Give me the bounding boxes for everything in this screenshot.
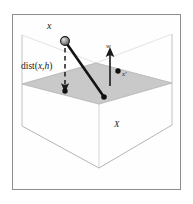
label-normal-vector-w: w	[106, 43, 111, 50]
label-distance-expression: dist(x,h)	[21, 62, 52, 72]
figure-graphics	[0, 0, 193, 204]
plane-point-x-prime	[115, 68, 120, 73]
point-x-sphere	[61, 37, 70, 46]
segment-endpoint	[101, 94, 107, 100]
figure-root: x w x′ X dist(x,h)	[0, 0, 193, 204]
label-instance-space-X: X	[114, 120, 120, 129]
dist-suffix: )	[49, 61, 52, 71]
label-point-x: x	[47, 21, 51, 31]
dist-prefix: dist(	[21, 61, 38, 71]
plane-foot-point	[62, 88, 67, 93]
label-point-x-prime: x′	[122, 71, 127, 78]
